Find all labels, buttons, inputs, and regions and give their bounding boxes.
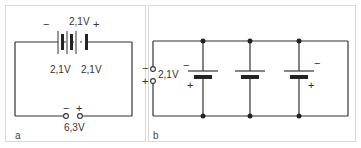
battery-minus-sign: − [43,18,49,30]
panel-a-caption: a [15,130,21,141]
right-cell-voltage-label: 2,1V [81,64,102,75]
battery-cell-icon [58,31,64,54]
panel-b-caption: b [153,130,159,141]
cell-1-plus-sign: + [187,79,193,91]
battery-cell-icon [67,31,73,54]
terminal-plus-sign: + [76,102,82,114]
terminal-plus-icon [78,114,83,119]
cell-1-minus-sign: − [183,59,189,71]
top-cell-voltage-label: 2,1V [69,16,90,27]
terminal-plus-icon [151,79,156,84]
terminal-plus-sign: + [142,75,148,87]
cell-3-minus-sign: − [314,57,320,69]
output-voltage-label: 2,1V [158,69,179,80]
terminal-minus-icon [151,67,156,72]
circuit-diagram: 2,1V − + 2,1V 2,1V − + 6,3V a [0,0,361,148]
battery-plus-sign: + [93,18,99,30]
parallel-cell-3 [284,71,314,79]
terminal-minus-sign: − [142,62,148,74]
left-cell-voltage-label: 2,1V [50,64,71,75]
terminal-minus-icon [64,114,69,119]
output-voltage-label: 6,3V [64,122,85,133]
parallel-cell-1 [188,71,218,79]
parallel-cell-2 [235,71,265,79]
cell-3-plus-sign: + [308,79,314,91]
terminal-minus-sign: − [63,102,69,114]
